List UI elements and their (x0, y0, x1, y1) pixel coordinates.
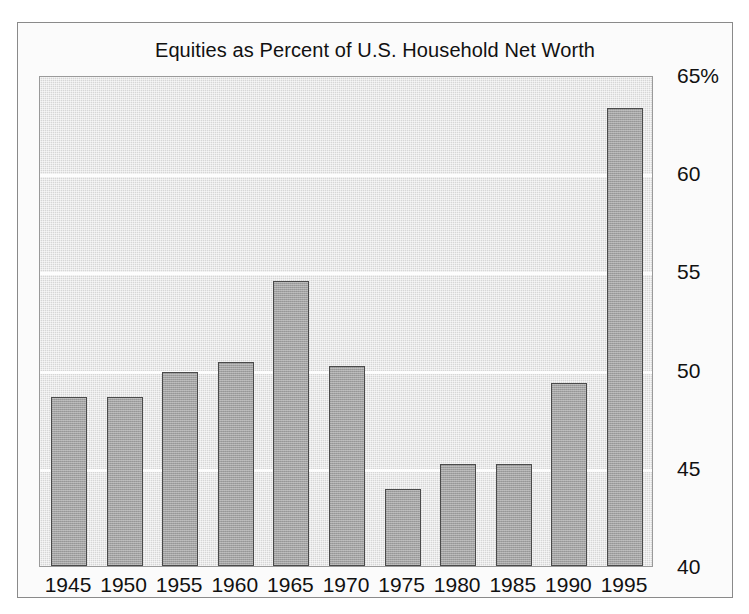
x-tick-1955: 1955 (151, 574, 207, 595)
gridline-60 (40, 174, 652, 177)
bar-1995 (607, 108, 643, 566)
bar-1985 (496, 464, 532, 566)
bar-1980 (440, 464, 476, 566)
gridline-55 (40, 272, 652, 275)
chart-title: Equities as Percent of U.S. Household Ne… (18, 39, 732, 62)
y-tick-40: 40 (677, 556, 700, 577)
x-tick-1950: 1950 (96, 574, 152, 595)
x-tick-1990: 1990 (540, 574, 596, 595)
y-tick-45: 45 (677, 458, 700, 479)
bar-1945 (51, 397, 87, 566)
x-tick-1965: 1965 (262, 574, 318, 595)
x-tick-1975: 1975 (374, 574, 430, 595)
x-tick-1945: 1945 (40, 574, 96, 595)
x-tick-1960: 1960 (207, 574, 263, 595)
x-tick-1980: 1980 (429, 574, 485, 595)
bar-1990 (551, 383, 587, 566)
bar-1970 (329, 366, 365, 566)
bar-1965 (273, 281, 309, 566)
y-tick-60: 60 (677, 163, 700, 184)
bar-1960 (218, 362, 254, 566)
bar-1975 (385, 489, 421, 566)
y-tick-65: 65% (677, 65, 719, 86)
y-tick-55: 55 (677, 261, 700, 282)
x-tick-1970: 1970 (318, 574, 374, 595)
x-tick-1995: 1995 (596, 574, 652, 595)
chart-figure: Equities as Percent of U.S. Household Ne… (17, 22, 733, 598)
x-tick-1985: 1985 (485, 574, 541, 595)
y-tick-50: 50 (677, 360, 700, 381)
plot-area (39, 76, 653, 567)
bar-1950 (107, 397, 143, 566)
bar-1955 (162, 372, 198, 566)
